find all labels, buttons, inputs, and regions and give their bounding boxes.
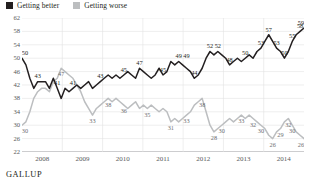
x-axis-tick-label: 2014 <box>277 156 291 163</box>
legend-item-getting-better: Getting better <box>6 2 59 9</box>
data-label: 30 <box>22 127 28 134</box>
data-label: 53 <box>258 39 264 46</box>
data-label: 29 <box>277 131 283 138</box>
y-axis-tick-label: 42 <box>13 82 20 89</box>
x-axis-tick-label: 2013 <box>237 156 251 163</box>
data-label: 52 <box>215 42 221 49</box>
data-label: 59 <box>298 19 304 26</box>
data-label: 44 <box>191 69 198 76</box>
y-axis-tick-label: 54 <box>13 42 20 49</box>
data-label: 35 <box>144 111 150 118</box>
x-axis-tick-label: 2010 <box>116 156 130 163</box>
x-axis-tick-label: 2009 <box>75 156 89 163</box>
data-label: 32 <box>250 121 256 128</box>
data-label: 47 <box>58 70 64 77</box>
y-axis-tick-label: 50 <box>13 55 20 62</box>
data-label: 43 <box>97 72 103 79</box>
y-axis-tick-label: 22 <box>13 149 20 156</box>
data-label: 28 <box>211 134 217 141</box>
x-axis-tick-label: 2011 <box>156 156 170 163</box>
y-axis-tick-label: 38 <box>13 95 20 102</box>
data-label: 26 <box>298 141 304 148</box>
data-label: 33 <box>89 117 95 124</box>
y-axis-tick-label: 62 <box>13 15 20 22</box>
data-label: 33 <box>183 117 189 124</box>
line-chart-svg: 5043414143454745494944525248505357535055… <box>22 18 304 152</box>
x-axis-tick-label: 2008 <box>35 156 49 163</box>
data-label: 50 <box>22 49 28 56</box>
legend-swatch-getting-worse <box>73 2 80 9</box>
data-label: 49 <box>183 52 189 59</box>
chart-root: Getting better Getting worse 22263034384… <box>0 0 310 185</box>
data-label: 47 <box>136 59 142 66</box>
data-label: 55 <box>289 32 295 39</box>
data-label: 57 <box>266 26 272 33</box>
source-attribution: GALLUP <box>6 170 42 179</box>
data-label: 53 <box>273 39 279 46</box>
plot-area: 5043414143454745494944525248505357535055… <box>22 18 304 152</box>
data-label: 31 <box>168 124 174 131</box>
legend-label-getting-better: Getting better <box>17 2 59 9</box>
data-label: 45 <box>121 66 127 73</box>
y-axis-labels: 2226303438424650545862 <box>0 18 20 152</box>
y-axis-tick-label: 34 <box>13 109 20 116</box>
data-label: 41 <box>70 79 76 86</box>
legend-swatch-getting-better <box>6 2 13 9</box>
data-label: 50 <box>242 49 248 56</box>
data-label: 30 <box>289 127 295 134</box>
data-label: 30 <box>258 127 264 134</box>
x-axis-labels: 2008200920102011201220132014 <box>22 156 304 170</box>
data-label: 38 <box>199 101 205 108</box>
data-label: 45 <box>160 66 166 73</box>
data-label: 50 <box>281 49 287 56</box>
data-label: 36 <box>121 107 127 114</box>
data-label: 26 <box>270 141 276 148</box>
legend-label-getting-worse: Getting worse <box>84 2 127 9</box>
x-axis-tick-label: 2012 <box>196 156 210 163</box>
data-label: 33 <box>238 117 244 124</box>
data-label: 49 <box>176 52 182 59</box>
data-label: 30 <box>219 127 225 134</box>
data-label: 43 <box>35 72 41 79</box>
y-axis-tick-label: 30 <box>13 122 20 129</box>
data-label: 52 <box>207 42 213 49</box>
data-label: 41 <box>54 79 60 86</box>
data-label: 38 <box>105 101 111 108</box>
legend-item-getting-worse: Getting worse <box>73 2 127 9</box>
y-axis-tick-label: 46 <box>13 68 20 75</box>
data-label: 48 <box>226 56 232 63</box>
chart-legend: Getting better Getting worse <box>6 2 127 9</box>
y-axis-tick-label: 26 <box>13 135 20 142</box>
y-axis-tick-label: 58 <box>13 28 20 35</box>
